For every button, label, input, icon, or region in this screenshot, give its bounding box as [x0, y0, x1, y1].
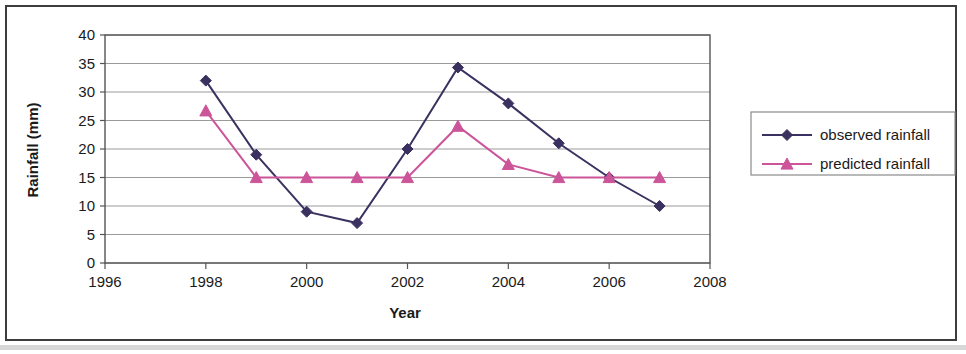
rainfall-line-chart: 0510152025303540 19961998200020022004200… — [0, 0, 966, 354]
chart-legend: observed rainfallpredicted rainfall — [751, 112, 955, 175]
legend-label: observed rainfall — [820, 126, 930, 143]
x-axis-title: Year — [389, 304, 421, 321]
data-series-group — [200, 62, 666, 229]
data-point-marker — [200, 75, 211, 86]
y-axis-tick-labels: 0510152025303540 — [78, 26, 105, 271]
y-tick-label: 25 — [78, 112, 95, 129]
y-tick-label: 15 — [78, 169, 95, 186]
y-tick-label: 10 — [78, 197, 95, 214]
chart-figure: 0510152025303540 19961998200020022004200… — [0, 0, 966, 354]
x-tick-label: 2008 — [693, 273, 726, 290]
y-tick-label: 5 — [87, 226, 95, 243]
series-line — [206, 67, 660, 223]
data-point-marker — [452, 120, 464, 131]
x-tick-label: 1998 — [189, 273, 222, 290]
legend-entry: predicted rainfall — [762, 155, 930, 172]
y-axis-title: Rainfall (mm) — [24, 102, 41, 197]
x-tick-label: 2000 — [290, 273, 323, 290]
x-tick-label: 2004 — [492, 273, 525, 290]
series-observed-rainfall — [200, 62, 665, 229]
y-tick-label: 20 — [78, 140, 95, 157]
data-point-marker — [654, 201, 665, 212]
x-tick-label: 2006 — [592, 273, 625, 290]
x-axis-ticks — [105, 263, 710, 269]
y-tick-label: 40 — [78, 26, 95, 43]
x-tick-label: 2002 — [391, 273, 424, 290]
data-point-marker — [200, 105, 212, 116]
y-tick-label: 30 — [78, 83, 95, 100]
y-tick-label: 35 — [78, 55, 95, 72]
x-tick-label: 1996 — [88, 273, 121, 290]
data-point-marker — [352, 218, 363, 229]
data-point-marker — [402, 144, 413, 155]
x-axis-tick-labels: 1996199820002002200420062008 — [88, 273, 726, 290]
y-tick-label: 0 — [87, 254, 95, 271]
legend-label: predicted rainfall — [820, 155, 930, 172]
